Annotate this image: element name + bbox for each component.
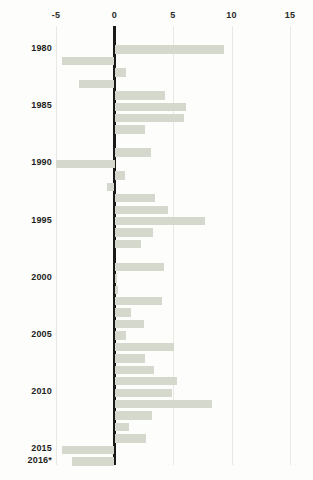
- year-label: 1980: [0, 43, 52, 53]
- year-label-slot: 2005: [0, 330, 52, 341]
- year-label: 2016*: [0, 455, 52, 465]
- year-label-slot: 1995: [0, 216, 52, 227]
- bar-row: 2016*: [0, 456, 313, 467]
- bar-row: 1980: [0, 44, 313, 55]
- bar: [115, 125, 145, 133]
- year-label: 2010: [0, 386, 52, 396]
- bar: [79, 80, 114, 88]
- bar: [115, 297, 163, 305]
- bar-row: [0, 284, 313, 295]
- bar: [115, 263, 164, 271]
- bar: [115, 68, 127, 76]
- bar: [115, 274, 117, 282]
- bar: [56, 160, 115, 168]
- bar: [115, 148, 151, 156]
- bar-row: [0, 227, 313, 238]
- bar: [115, 400, 212, 408]
- bar: [72, 457, 114, 465]
- year-label: 1995: [0, 215, 52, 225]
- bar-row: [0, 55, 313, 66]
- year-label: 1985: [0, 100, 52, 110]
- year-label-slot: 1985: [0, 101, 52, 112]
- bar: [62, 57, 115, 65]
- bar: [115, 194, 156, 202]
- x-tick-label: 0: [112, 10, 117, 20]
- bar-row: [0, 250, 313, 261]
- bar: [115, 308, 131, 316]
- bar-row: [0, 399, 313, 410]
- bar-row: [0, 113, 313, 124]
- bar: [115, 377, 177, 385]
- year-label: 2005: [0, 329, 52, 339]
- bar: [115, 423, 129, 431]
- bar-row: [0, 307, 313, 318]
- bar: [115, 91, 165, 99]
- bar: [115, 114, 184, 122]
- bar: [115, 286, 119, 294]
- bar: [115, 228, 154, 236]
- bar-row: [0, 421, 313, 432]
- x-tick-label: 5: [170, 10, 175, 20]
- bar-row: [0, 410, 313, 421]
- bar-chart: -5051015 1980198519901995200020052010201…: [0, 0, 313, 480]
- bar: [115, 354, 145, 362]
- bar-row: 2010: [0, 387, 313, 398]
- bar-row: [0, 296, 313, 307]
- bar: [115, 366, 155, 374]
- year-label-slot: 2000: [0, 273, 52, 284]
- year-label-slot: 2016*: [0, 456, 52, 467]
- bar-row: 2005: [0, 330, 313, 341]
- x-tick-label: 15: [285, 10, 296, 20]
- bar-row: [0, 124, 313, 135]
- year-label-slot: 1980: [0, 44, 52, 55]
- year-label: 2000: [0, 272, 52, 282]
- year-label-slot: 1990: [0, 158, 52, 169]
- bar: [115, 434, 147, 442]
- year-label-slot: 2010: [0, 387, 52, 398]
- bar-row: [0, 238, 313, 249]
- bar-row: [0, 193, 313, 204]
- bar: [115, 171, 126, 179]
- bar: [115, 320, 144, 328]
- bar-row: [0, 170, 313, 181]
- bar: [115, 411, 152, 419]
- bar: [115, 103, 186, 111]
- bar-row: [0, 341, 313, 352]
- x-tick-label: 10: [226, 10, 237, 20]
- bar: [115, 206, 169, 214]
- bar-row: [0, 181, 313, 192]
- bar: [115, 331, 127, 339]
- bar: [115, 240, 142, 248]
- bar-rows: 198019851990199520002005201020152016*: [0, 44, 313, 467]
- year-label: 1990: [0, 157, 52, 167]
- bar: [62, 446, 115, 454]
- bar-row: 1995: [0, 216, 313, 227]
- bar-row: 1990: [0, 158, 313, 169]
- bar-row: 2000: [0, 273, 313, 284]
- bar: [107, 183, 114, 191]
- bar-row: [0, 136, 313, 147]
- bar-row: 1985: [0, 101, 313, 112]
- bar-row: [0, 353, 313, 364]
- bar: [115, 45, 225, 53]
- bar: [115, 343, 175, 351]
- bar-row: [0, 78, 313, 89]
- bar-row: [0, 67, 313, 78]
- bar: [115, 389, 172, 397]
- bar-row: [0, 364, 313, 375]
- year-label: 2015: [0, 443, 52, 453]
- x-tick-label: -5: [52, 10, 61, 20]
- bar: [115, 217, 205, 225]
